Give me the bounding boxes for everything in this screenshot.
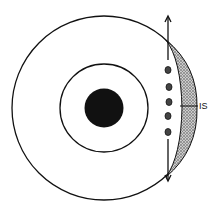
dot <box>165 67 171 74</box>
diagram: IS <box>0 0 222 212</box>
dot <box>166 99 172 106</box>
core-disk <box>85 89 124 128</box>
label-is: IS <box>199 101 208 111</box>
dot <box>166 84 172 91</box>
dot <box>165 113 171 120</box>
dot <box>165 129 171 136</box>
dots <box>165 67 172 136</box>
stippled-crescent <box>166 40 197 177</box>
